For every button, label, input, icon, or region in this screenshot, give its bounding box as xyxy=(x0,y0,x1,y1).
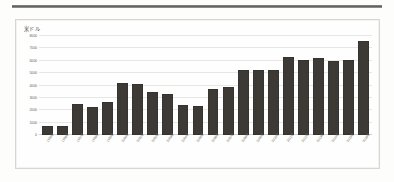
y-axis-tick-label: 7000 xyxy=(29,46,37,50)
bar xyxy=(298,60,309,135)
bar-slot xyxy=(356,36,371,135)
x-label-slot: 2012年 xyxy=(296,135,311,164)
y-axis-tick-label: 8000 xyxy=(29,34,37,38)
y-axis-tick-labels: 010002000300040005000600070008000 xyxy=(16,36,39,135)
bar xyxy=(328,61,339,135)
bar xyxy=(117,83,128,135)
x-label-slot: 2008年 xyxy=(236,135,251,164)
bar-slot xyxy=(326,36,341,135)
bar-series xyxy=(39,36,372,135)
bar xyxy=(87,107,98,135)
x-label-slot: 2011年 xyxy=(281,135,296,164)
y-axis-tick-label: 6000 xyxy=(29,59,37,63)
bar-slot xyxy=(281,36,296,135)
x-label-slot: 2006年 xyxy=(206,135,221,164)
bar-slot xyxy=(85,36,100,135)
bar xyxy=(343,60,354,135)
bar-slot xyxy=(55,36,70,135)
x-label-slot: 1995年 xyxy=(40,135,55,164)
bar xyxy=(147,92,158,135)
bar xyxy=(162,94,173,135)
bar-slot xyxy=(251,36,266,135)
bar-slot xyxy=(206,36,221,135)
x-label-slot: 2007年 xyxy=(221,135,236,164)
x-label-slot: 2015年 xyxy=(341,135,356,164)
bar xyxy=(283,57,294,135)
y-axis-tick-label: 0 xyxy=(35,133,37,137)
bar-slot xyxy=(40,36,55,135)
bar xyxy=(102,102,113,135)
bar xyxy=(208,89,219,135)
bar-slot xyxy=(145,36,160,135)
bar xyxy=(193,106,204,135)
y-axis-unit-label: 米ドル xyxy=(24,25,40,32)
bar-slot xyxy=(266,36,281,135)
bar xyxy=(268,70,279,135)
x-label-slot: 2005年 xyxy=(190,135,205,164)
bar xyxy=(313,58,324,135)
bar-slot xyxy=(190,36,205,135)
x-label-slot: 2014年 xyxy=(326,135,341,164)
bar xyxy=(223,87,234,135)
bar-slot xyxy=(221,36,236,135)
x-label-slot: 1998年 xyxy=(85,135,100,164)
x-label-slot: 2013年 xyxy=(311,135,326,164)
x-label-slot: 2002年 xyxy=(145,135,160,164)
bar-slot xyxy=(175,36,190,135)
x-label-slot: 2009年 xyxy=(251,135,266,164)
x-label-slot: 2000年 xyxy=(115,135,130,164)
x-label-slot: 2004年 xyxy=(175,135,190,164)
bar-slot xyxy=(70,36,85,135)
screenshot-root: 米ドル 010002000300040005000600070008000 19… xyxy=(0,0,394,182)
bar-slot xyxy=(160,36,175,135)
x-label-slot: 2010年 xyxy=(266,135,281,164)
y-axis-tick-label: 3000 xyxy=(29,96,37,100)
bar xyxy=(253,70,264,135)
x-axis-tick-labels: 1995年1996年1997年1998年1999年2000年2001年2002年… xyxy=(39,135,372,164)
plot-area xyxy=(39,36,372,135)
chart-panel: 米ドル 010002000300040005000600070008000 19… xyxy=(15,19,380,169)
bar-slot xyxy=(311,36,326,135)
x-label-slot: 1999年 xyxy=(100,135,115,164)
top-divider-rule xyxy=(12,5,382,8)
bar xyxy=(132,84,143,135)
y-axis-tick-label: 1000 xyxy=(29,121,37,125)
bar-slot xyxy=(296,36,311,135)
x-label-slot: 2001年 xyxy=(130,135,145,164)
y-axis-tick-label: 5000 xyxy=(29,71,37,75)
y-axis-tick-label: 4000 xyxy=(29,84,37,88)
bar xyxy=(178,105,189,135)
x-label-slot: 1996年 xyxy=(55,135,70,164)
bar xyxy=(358,41,369,135)
bar-slot xyxy=(100,36,115,135)
y-axis-tick-label: 2000 xyxy=(29,108,37,112)
bar-slot xyxy=(341,36,356,135)
x-label-slot: 2016年 xyxy=(356,135,371,164)
bar xyxy=(72,104,83,135)
bar-slot xyxy=(115,36,130,135)
bar-slot xyxy=(236,36,251,135)
bar xyxy=(238,70,249,135)
x-label-slot: 1997年 xyxy=(70,135,85,164)
x-label-slot: 2003年 xyxy=(160,135,175,164)
bar-slot xyxy=(130,36,145,135)
